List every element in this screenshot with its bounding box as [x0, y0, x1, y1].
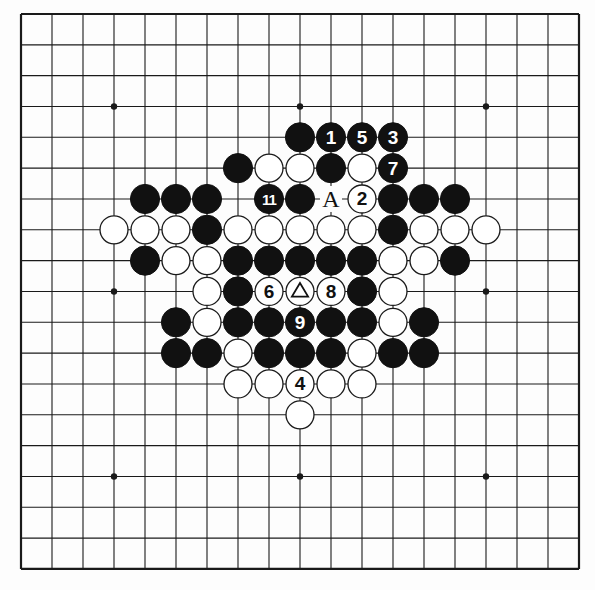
move-number-label: 9 [295, 312, 306, 333]
black-stone[interactable] [192, 184, 221, 213]
black-stone[interactable] [130, 184, 159, 213]
white-stone[interactable] [441, 216, 469, 244]
white-stone[interactable] [286, 401, 314, 429]
go-board-grid[interactable]: 15371126894 A [0, 0, 595, 590]
white-stone[interactable] [286, 216, 314, 244]
black-stone[interactable] [378, 215, 407, 244]
black-stone[interactable] [161, 184, 190, 213]
black-stone[interactable]: 7 [378, 154, 407, 183]
black-stone[interactable]: 3 [378, 123, 407, 152]
star-point-icon [111, 288, 117, 294]
white-stone[interactable] [472, 216, 500, 244]
white-stone[interactable] [100, 216, 128, 244]
black-stone[interactable] [409, 308, 438, 337]
star-point-icon [111, 103, 117, 109]
black-stone[interactable] [440, 184, 469, 213]
black-stone[interactable] [316, 339, 345, 368]
white-stone[interactable] [224, 339, 252, 367]
black-stone[interactable] [378, 339, 407, 368]
star-point-icon [297, 103, 303, 109]
black-stone[interactable]: 1 [316, 123, 345, 152]
black-stone[interactable]: 9 [285, 308, 314, 337]
white-stone[interactable] [162, 247, 190, 275]
black-stone[interactable] [192, 215, 221, 244]
black-stone[interactable] [161, 308, 190, 337]
white-stone[interactable] [348, 154, 376, 182]
black-stone[interactable]: 5 [347, 123, 376, 152]
white-stone[interactable] [193, 277, 221, 305]
move-number-label: 11 [262, 191, 277, 208]
star-point-icon [297, 473, 303, 479]
white-stone[interactable] [317, 370, 345, 398]
white-stone[interactable] [162, 216, 190, 244]
white-stone[interactable] [317, 216, 345, 244]
black-stone[interactable] [347, 246, 376, 275]
move-number-label: 1 [326, 127, 337, 148]
white-stone[interactable] [131, 216, 159, 244]
black-stone[interactable] [440, 246, 469, 275]
black-stone[interactable] [347, 277, 376, 306]
black-stone[interactable] [347, 308, 376, 337]
black-stone[interactable]: 11 [254, 184, 283, 213]
black-stone[interactable] [316, 308, 345, 337]
black-stone[interactable] [161, 339, 190, 368]
white-stone[interactable] [348, 339, 376, 367]
go-board[interactable]: 15371126894 A [0, 0, 595, 590]
black-stone[interactable] [223, 308, 252, 337]
white-stone[interactable] [379, 308, 407, 336]
move-number-label: 7 [388, 158, 399, 179]
white-stone[interactable] [410, 247, 438, 275]
move-number-label: 6 [264, 281, 275, 302]
star-point-icon [483, 473, 489, 479]
black-stone[interactable] [409, 184, 438, 213]
white-stone[interactable] [193, 247, 221, 275]
white-stone[interactable] [348, 216, 376, 244]
black-stone[interactable] [285, 246, 314, 275]
black-stone[interactable] [285, 123, 314, 152]
star-point-icon [483, 103, 489, 109]
white-stone[interactable] [286, 154, 314, 182]
move-number-label: 5 [357, 127, 368, 148]
move-number-label: 4 [295, 373, 306, 394]
white-stone[interactable]: 8 [317, 277, 345, 305]
move-number-label: 8 [326, 281, 337, 302]
star-point-icon [111, 473, 117, 479]
black-stone[interactable] [285, 339, 314, 368]
white-stone[interactable] [224, 370, 252, 398]
black-stone[interactable] [223, 246, 252, 275]
black-stone[interactable] [316, 246, 345, 275]
white-stone[interactable] [193, 308, 221, 336]
black-stone[interactable] [409, 339, 438, 368]
black-stone[interactable] [254, 339, 283, 368]
white-stone[interactable] [379, 277, 407, 305]
white-stone[interactable] [348, 370, 376, 398]
black-stone[interactable] [223, 277, 252, 306]
point-label-a: A [322, 186, 340, 212]
black-stone[interactable] [254, 246, 283, 275]
white-stone[interactable]: 6 [255, 277, 283, 305]
black-stone[interactable] [316, 154, 345, 183]
black-stone[interactable] [223, 154, 252, 183]
white-stone[interactable]: 2 [348, 185, 376, 213]
white-stone[interactable] [224, 216, 252, 244]
white-stone[interactable] [255, 216, 283, 244]
annotations-layer: A [320, 186, 342, 212]
move-number-label: 2 [357, 188, 368, 209]
move-number-label: 3 [388, 127, 399, 148]
white-stone[interactable] [255, 370, 283, 398]
white-stone[interactable] [379, 247, 407, 275]
black-stone[interactable] [254, 308, 283, 337]
black-stone[interactable] [130, 246, 159, 275]
black-stone[interactable] [192, 339, 221, 368]
white-stone[interactable]: 4 [286, 370, 314, 398]
white-stone[interactable] [410, 216, 438, 244]
star-point-icon [483, 288, 489, 294]
black-stone[interactable] [378, 184, 407, 213]
black-stone[interactable] [285, 184, 314, 213]
white-stone[interactable] [286, 277, 314, 305]
white-stone[interactable] [255, 154, 283, 182]
